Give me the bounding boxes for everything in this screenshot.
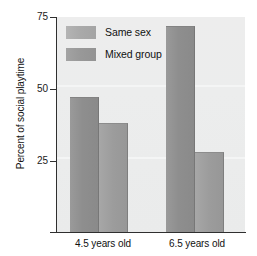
legend-swatch-icon-mixed-group xyxy=(66,48,96,61)
y-tick-label-75: 75 xyxy=(37,11,48,22)
bar-same-sex-group-2[interactable] xyxy=(166,26,195,232)
y-tick-label-50: 50 xyxy=(37,83,48,94)
bar-mixed-group-group-1[interactable] xyxy=(99,123,128,232)
legend-item-mixed-group[interactable]: Mixed group xyxy=(66,45,162,63)
x-axis-line xyxy=(50,232,246,233)
y-tick-mark-25 xyxy=(50,161,56,162)
y-tick-mark-50 xyxy=(50,89,56,90)
bar-chart: 75 50 25 Percent of social playtime 4.5 … xyxy=(0,0,257,256)
y-axis-line xyxy=(56,17,57,233)
legend: Same sex Mixed group xyxy=(66,23,162,67)
bar-same-sex-group-1[interactable] xyxy=(70,97,99,232)
bar-mixed-group-group-2[interactable] xyxy=(195,152,224,232)
x-tick-label-group-1: 4.5 years old xyxy=(58,238,148,249)
legend-swatch-icon-same-sex xyxy=(66,26,96,39)
y-axis-title: Percent of social playtime xyxy=(15,24,26,204)
legend-label-mixed-group: Mixed group xyxy=(105,48,162,60)
x-tick-label-group-2: 6.5 years old xyxy=(152,238,242,249)
y-tick-label-wrap-75: 75 xyxy=(0,11,48,22)
y-tick-label-25: 25 xyxy=(37,155,48,166)
y-tick-mark-75 xyxy=(50,17,56,18)
plot-band-upper xyxy=(57,85,245,87)
legend-item-same-sex[interactable]: Same sex xyxy=(66,23,162,41)
legend-label-same-sex: Same sex xyxy=(105,26,151,38)
